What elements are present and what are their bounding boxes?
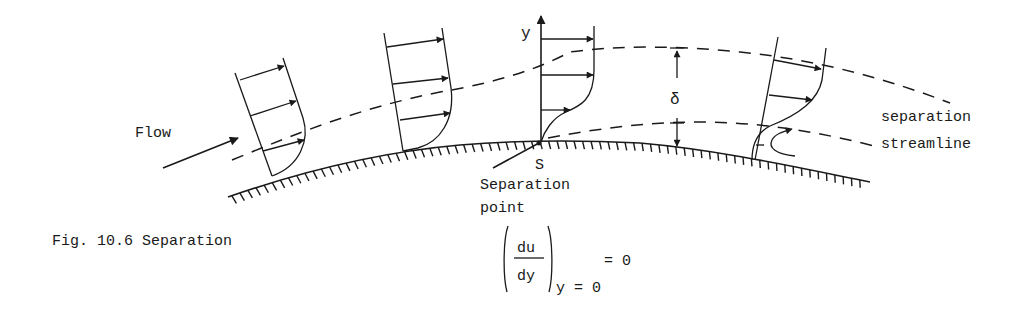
- equation-rhs: = 0: [604, 253, 631, 270]
- equation-numerator: du: [517, 240, 535, 257]
- velocity-profile-separation: [493, 16, 594, 168]
- velocity-profile-1: [235, 58, 305, 176]
- separation-streamline-label-line1: separation: [881, 109, 971, 126]
- zero-shear-equation: du dy y = 0 = 0: [504, 226, 631, 297]
- separation-point-label-line2: point: [480, 200, 525, 217]
- separation-streamline-label-line2: streamline: [881, 136, 971, 153]
- y-axis-label: y: [521, 25, 531, 43]
- equation-subscript: y = 0: [556, 280, 601, 297]
- backflow-arrow-icon: [771, 129, 795, 156]
- s-label: S: [535, 157, 544, 174]
- flow-label: Flow: [135, 125, 171, 142]
- velocity-profile-2: [384, 28, 452, 151]
- separation-streamline-line: [548, 122, 878, 147]
- separation-diagram: Flow y δ S Separation point separation s…: [0, 0, 1014, 314]
- separation-point-label-line1: Separation: [480, 177, 570, 194]
- delta-label: δ: [670, 91, 680, 109]
- equation-denominator: dy: [517, 268, 535, 285]
- velocity-profile-reversed: [752, 37, 826, 160]
- flow-arrow-icon: [163, 138, 238, 168]
- figure-caption: Fig. 10.6 Separation: [52, 233, 232, 250]
